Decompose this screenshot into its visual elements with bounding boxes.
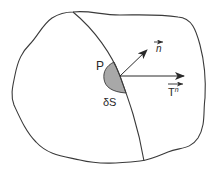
- surface-element: [104, 62, 126, 93]
- point-label: P: [96, 59, 104, 73]
- normal-vector: [120, 50, 147, 76]
- normal-label: n: [156, 43, 162, 54]
- traction-label: Tn: [168, 86, 179, 98]
- area-label: δS: [103, 96, 116, 108]
- traction-label-superscript: n: [175, 86, 179, 93]
- stress-diagram: P δS n Tn: [0, 0, 218, 174]
